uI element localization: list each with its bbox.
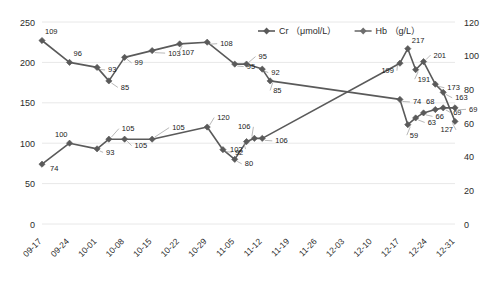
data-point-marker[interactable]	[405, 46, 411, 52]
data-label-leader	[418, 120, 425, 123]
x-axis-category-label: 11-19	[269, 236, 291, 258]
x-axis-category-label: 09-24	[48, 236, 71, 259]
x-axis-category-label: 11-05	[214, 236, 236, 258]
legend-label-cr[interactable]: Cr （μmol/L）	[279, 26, 336, 36]
x-axis-category-label: 12-31	[434, 236, 457, 259]
data-point-label: 103	[168, 49, 181, 58]
data-point-label: 85	[273, 86, 281, 95]
data-point-label: 106	[238, 122, 251, 131]
data-point-marker[interactable]	[121, 136, 127, 142]
x-axis-category-label: 10-08	[104, 236, 127, 259]
data-label-leader	[402, 101, 410, 102]
data-label-leader	[111, 129, 119, 138]
x-axis-category-label: 11-12	[242, 236, 264, 258]
x-axis-category-label: 12-03	[324, 236, 347, 259]
x-axis-category-label: 10-22	[159, 236, 182, 259]
right-axis-tick-label: 100	[464, 51, 479, 61]
legend-swatch-marker	[360, 28, 367, 35]
data-point-marker[interactable]	[259, 135, 265, 141]
data-point-label: 201	[434, 51, 447, 60]
data-point-label: 163	[455, 93, 468, 102]
data-label-leader	[237, 66, 244, 67]
x-axis-category-label: 12-24	[406, 236, 429, 259]
data-point-label: 120	[217, 113, 230, 122]
data-point-label: 93	[108, 65, 116, 74]
data-point-label: 100	[55, 130, 68, 139]
data-label-leader	[237, 161, 242, 164]
data-label-leader	[458, 109, 467, 110]
data-point-label: 191	[418, 75, 431, 84]
x-axis-category-label: 10-15	[131, 236, 154, 259]
data-point-label: 74	[413, 97, 421, 106]
legend-swatch-marker	[263, 28, 270, 35]
data-point-marker[interactable]	[149, 48, 155, 54]
right-axis-tick-label: 60	[464, 119, 474, 129]
data-point-label: 59	[410, 131, 418, 140]
data-point-label: 105	[172, 123, 185, 132]
data-point-marker[interactable]	[440, 105, 446, 111]
data-label-leader	[210, 118, 215, 126]
data-point-label: 127	[440, 125, 453, 134]
data-point-label: 66	[436, 112, 444, 121]
data-point-label: 93	[106, 148, 114, 157]
left-axis-tick-label: 0	[30, 220, 35, 230]
data-label-leader	[446, 110, 451, 113]
legend-label-hb[interactable]: Hb （g/L）	[376, 26, 421, 36]
x-axis-category-label: 09-17	[21, 236, 44, 259]
series-line-hb	[42, 41, 455, 125]
data-point-label: 108	[220, 39, 233, 48]
data-label-leader	[210, 44, 218, 45]
data-point-label: 102	[230, 145, 243, 154]
x-axis-category-label: 12-17	[379, 236, 402, 259]
data-point-label: 105	[122, 124, 135, 133]
data-label-leader	[155, 53, 166, 54]
right-axis-tick-label: 40	[464, 152, 474, 162]
data-label-leader	[397, 65, 398, 71]
data-point-label: 68	[426, 97, 434, 106]
data-label-leader	[252, 127, 254, 137]
data-label-leader	[446, 94, 453, 98]
line-chart: 25020015010050012010080604020009-1709-24…	[0, 0, 497, 283]
chart-container: 25020015010050012010080604020009-1709-24…	[0, 0, 497, 283]
data-label-leader	[100, 69, 106, 70]
left-axis-tick-label: 100	[20, 139, 35, 149]
data-point-label: 106	[275, 136, 288, 145]
data-point-marker[interactable]	[397, 96, 403, 102]
data-point-label: 217	[412, 36, 425, 45]
data-label-leader	[426, 55, 431, 60]
data-point-label: 199	[381, 66, 394, 75]
data-point-label: 85	[121, 83, 129, 92]
right-axis-tick-label: 0	[464, 220, 469, 230]
data-point-label: 69	[469, 105, 477, 114]
data-point-label: 92	[271, 68, 279, 77]
x-axis-category-label: 12-10	[351, 236, 374, 259]
data-point-label: 107	[182, 48, 195, 57]
data-point-label: 173	[447, 83, 460, 92]
left-axis-tick-label: 150	[20, 98, 35, 108]
data-point-label: 95	[259, 52, 267, 61]
data-point-label: 109	[45, 27, 58, 36]
data-point-label: 96	[74, 49, 82, 58]
left-axis-tick-label: 50	[25, 179, 35, 189]
data-point-label: 74	[50, 164, 58, 173]
data-point-label: 99	[135, 58, 143, 67]
left-axis-tick-label: 200	[20, 58, 35, 68]
data-point-label: 105	[135, 141, 148, 150]
x-axis-category-label: 10-01	[76, 236, 99, 259]
x-axis-category-label: 11-26	[297, 236, 319, 258]
left-axis-tick-label: 250	[20, 18, 35, 28]
data-point-label: 80	[245, 159, 253, 168]
right-axis-tick-label: 120	[464, 18, 479, 28]
data-point-marker[interactable]	[149, 136, 155, 142]
data-label-leader	[100, 151, 104, 153]
data-label-leader	[426, 115, 433, 117]
data-label-leader	[265, 140, 273, 141]
data-label-leader	[111, 83, 118, 88]
x-axis-category-label: 10-29	[186, 236, 209, 259]
right-axis-tick-label: 20	[464, 186, 474, 196]
